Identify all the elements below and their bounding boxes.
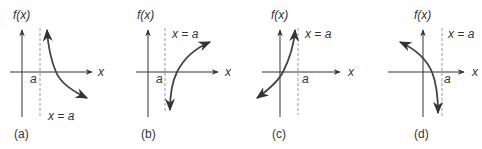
- panel-b: f(x) x a x = a (b): [136, 8, 232, 141]
- asymptote-label: x = a: [304, 27, 332, 41]
- x-axis-label: x: [224, 65, 232, 79]
- x-axis-label: x: [97, 65, 105, 79]
- y-axis-label: f(x): [414, 8, 431, 22]
- panel-caption: (c): [272, 127, 286, 141]
- y-axis-label: f(x): [13, 8, 30, 22]
- tick-label-a: a: [156, 72, 163, 86]
- y-axis-label: f(x): [137, 8, 154, 22]
- asymptote-label: x = a: [171, 27, 199, 41]
- panel-d: f(x) x a x = a (d): [388, 8, 479, 141]
- panel-caption: (a): [14, 127, 29, 141]
- tick-label-a: a: [30, 72, 37, 86]
- panel-caption: (d): [414, 127, 429, 141]
- panel-caption: (b): [141, 127, 156, 141]
- function-curve: [170, 42, 210, 110]
- panel-c: f(x) x a x = a (c): [257, 8, 355, 141]
- asymptote-label: x = a: [447, 27, 475, 41]
- tick-label-a: a: [444, 72, 451, 86]
- x-axis-label: x: [347, 65, 355, 79]
- panel-a: f(x) x a x = a (a): [10, 8, 105, 141]
- function-curve: [47, 30, 87, 98]
- y-axis-label: f(x): [271, 8, 288, 22]
- vertical-asymptote-figure: f(x) x a x = a (a) f(x) x a x = a (b) f(…: [0, 0, 482, 149]
- function-curve: [400, 42, 438, 113]
- x-axis-label: x: [471, 65, 479, 79]
- tick-label-a: a: [302, 72, 309, 86]
- asymptote-label: x = a: [47, 109, 75, 123]
- function-curve: [257, 30, 295, 98]
